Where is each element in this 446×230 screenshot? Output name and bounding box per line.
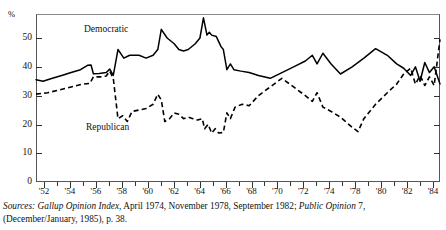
x-tick-label-74: '74 [324, 186, 335, 196]
x-tick-label-58: '58 [116, 186, 127, 196]
source-work-1: Gallup Opinion Index [38, 201, 120, 211]
x-tick-minor-6 [213, 182, 214, 186]
x-tick-label-64: '64 [194, 186, 205, 196]
x-tick-label-68: '68 [246, 186, 257, 196]
x-tick-minor-3 [135, 182, 136, 186]
x-tick-minor-1 [83, 182, 84, 186]
x-tick-label-78: '78 [350, 186, 361, 196]
series-canvas [0, 0, 446, 196]
x-tick-minor-5 [187, 182, 188, 186]
x-tick-label-80: '80 [376, 186, 387, 196]
x-tick-label-56: '56 [91, 186, 102, 196]
line-chart: % 50 40 30 20 10 0 Democratic Republican [0, 0, 446, 196]
series-annotation-republican: Republican [86, 122, 129, 132]
x-tick-minor-13 [394, 182, 395, 186]
source-suffix: 7, [356, 201, 365, 211]
source-work-2: Public Opinion [299, 201, 356, 211]
series-annotation-democratic: Democratic [84, 24, 128, 34]
source-prefix: Sources: [3, 201, 35, 211]
x-tick-minor-9 [290, 182, 291, 186]
source-middle: , April 1974, November 1978, September 1… [119, 201, 299, 211]
x-tick-minor-7 [239, 182, 240, 186]
series-line-republican [36, 39, 440, 133]
x-tick-minor-2 [109, 182, 110, 186]
x-tick-label-66: '66 [220, 186, 231, 196]
x-tick-label-54: '54 [65, 186, 76, 196]
x-tick-minor-14 [420, 182, 421, 186]
x-tick-minor-4 [161, 182, 162, 186]
source-line-2: (December/January, 1985), p. 38. [3, 213, 444, 226]
source-note: Sources: Gallup Opinion Index, April 197… [3, 200, 444, 226]
x-tick-label-84: '84 [428, 186, 439, 196]
x-tick-minor-8 [264, 182, 265, 186]
x-tick-minor-12 [368, 182, 369, 186]
x-tick-minor-11 [342, 182, 343, 186]
x-tick-label-62: '62 [168, 186, 179, 196]
chart-page: % 50 40 30 20 10 0 Democratic Republican [0, 0, 446, 230]
x-tick-label-72: '72 [298, 186, 309, 196]
x-tick-label-52: '52 [39, 186, 50, 196]
x-tick-label-60: '60 [142, 186, 153, 196]
x-tick-minor-10 [316, 182, 317, 186]
x-tick-label-70: '70 [272, 186, 283, 196]
x-tick-label-82: '82 [402, 186, 413, 196]
x-tick-minor-0 [57, 182, 58, 186]
